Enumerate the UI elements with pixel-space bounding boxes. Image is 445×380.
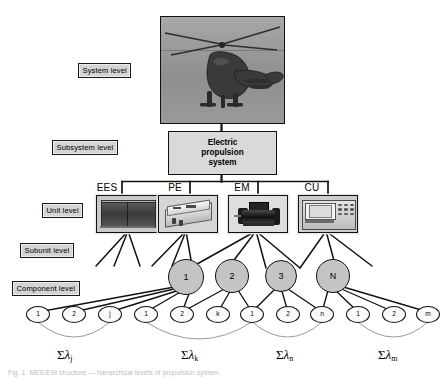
- subunit-node-1: 1: [168, 259, 204, 295]
- subunit-node-2: 2: [215, 259, 249, 293]
- component-node-2-2: 2: [170, 306, 194, 323]
- sum-formula-m: Σλm: [378, 348, 397, 361]
- sigma-glyph-j: Σ: [57, 347, 65, 362]
- component-node-1-j: j: [98, 306, 122, 323]
- control-unit-image: [298, 195, 358, 233]
- component-node-2-1: 1: [134, 306, 158, 323]
- sum-subscript-j: j: [70, 354, 72, 363]
- level-tag-subunit: Subunit level: [20, 243, 74, 258]
- sum-formula-j: Σλj: [57, 348, 72, 361]
- electric-motor-image: [228, 195, 288, 233]
- sum-formula-n: Σλn: [276, 348, 293, 361]
- component-node-N-1: 1: [346, 306, 370, 323]
- subunit-node-N: N: [316, 259, 350, 293]
- subsystem-line-3: system: [201, 158, 243, 168]
- sum-subscript-m: m: [391, 354, 397, 363]
- subsystem-box: Electric propulsion system: [168, 131, 277, 175]
- sum-formula-k: Σλk: [181, 348, 198, 361]
- subunit-node-3: 3: [265, 260, 297, 292]
- unit-label-em: EM: [228, 183, 256, 193]
- component-node-3-2: 2: [276, 306, 300, 323]
- level-tag-system: System level: [78, 63, 131, 78]
- subsystem-line-2: propulsion: [201, 148, 243, 158]
- component-node-3-1: 1: [240, 306, 264, 323]
- unit-label-pe: PE: [162, 183, 188, 193]
- component-node-2-k: k: [206, 306, 230, 323]
- subsystem-line-1: Electric: [201, 138, 243, 148]
- component-node-1-2: 2: [62, 306, 86, 323]
- sum-subscript-n: n: [289, 354, 293, 363]
- figure-caption: Fig. 1. MEE/EM structure — hierarchical …: [8, 369, 219, 376]
- component-node-N-2: 2: [382, 306, 406, 323]
- unit-label-ees: EES: [92, 183, 122, 193]
- sigma-glyph-k: Σ: [181, 347, 189, 362]
- energy-storage-image: [96, 195, 159, 233]
- sigma-glyph-n: Σ: [276, 347, 284, 362]
- figure-canvas: System level Subsystem level Unit level …: [0, 0, 445, 380]
- level-tag-subsystem: Subsystem level: [52, 140, 118, 155]
- power-electronics-image: [158, 195, 218, 233]
- component-node-N-m: m: [416, 306, 440, 323]
- level-tag-unit: Unit level: [42, 203, 83, 218]
- component-node-1-1: 1: [26, 306, 50, 323]
- helicopter-photo: [160, 16, 285, 124]
- level-tag-component: Component level: [12, 281, 80, 296]
- sum-subscript-k: k: [194, 354, 198, 363]
- sigma-glyph-m: Σ: [378, 347, 386, 362]
- component-node-3-n: n: [310, 306, 334, 323]
- unit-label-cu: CU: [298, 183, 326, 193]
